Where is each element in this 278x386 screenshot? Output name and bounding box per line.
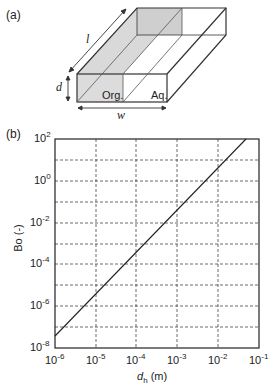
y-tick: 10-6 xyxy=(30,299,49,311)
y-axis-label: Bo (-) xyxy=(12,224,24,252)
y-tick: 102 xyxy=(34,132,51,144)
grid xyxy=(55,139,259,348)
y-tick: 10-8 xyxy=(30,341,49,353)
y-tick: 10-4 xyxy=(30,257,49,269)
x-tick: 10-2 xyxy=(208,354,227,366)
x-tick: 10-5 xyxy=(86,354,105,366)
y-tick: 10-2 xyxy=(30,216,49,228)
y-tick: 100 xyxy=(34,174,51,186)
x-axis-label: dh (m) xyxy=(137,370,167,385)
x-tick: 10-1 xyxy=(249,354,268,366)
x-tick: 10-4 xyxy=(126,354,145,366)
bo-curve xyxy=(55,139,246,336)
x-tick: 10-6 xyxy=(45,354,64,366)
bond-number-plot xyxy=(0,0,278,386)
x-tick: 10-3 xyxy=(167,354,186,366)
plot-frame xyxy=(55,139,259,348)
